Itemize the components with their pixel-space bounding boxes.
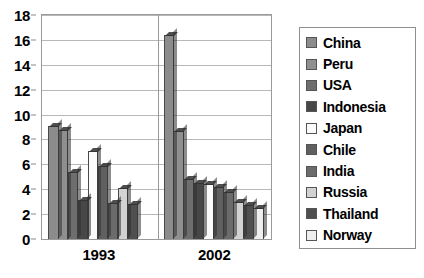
- bar-side-face: [117, 196, 121, 239]
- legend-item-usa[interactable]: USA: [306, 75, 415, 96]
- legend-swatch-icon: [306, 187, 317, 198]
- legend-swatch-icon: [306, 144, 317, 155]
- y-tick-label-12: 12: [14, 82, 30, 97]
- bar-side-face: [183, 124, 187, 239]
- y-tick-mark-6: [31, 164, 36, 165]
- y-tick-label-10: 10: [14, 107, 30, 122]
- y-tick-mark-16: [31, 39, 36, 40]
- legend-item-china[interactable]: China: [306, 32, 415, 53]
- x-tick-label-1993: 1993: [41, 246, 157, 263]
- legend-item-india[interactable]: India: [306, 160, 415, 181]
- legend-swatch-icon: [306, 59, 317, 70]
- bar-side-face: [87, 193, 91, 239]
- legend-item-japan[interactable]: Japan: [306, 118, 415, 139]
- bar-side-face: [253, 198, 257, 239]
- bar-china-2002: [164, 35, 175, 239]
- legend-item-indonesia[interactable]: Indonesia: [306, 96, 415, 117]
- legend-swatch-icon: [306, 101, 317, 112]
- bar-side-face: [173, 28, 177, 239]
- bar-side-face: [107, 159, 111, 239]
- y-tick-mark-8: [31, 139, 36, 140]
- legend-swatch-icon: [306, 123, 317, 134]
- y-tick-label-8: 8: [22, 132, 30, 147]
- y-tick-label-2: 2: [22, 207, 30, 222]
- legend-item-label: USA: [323, 78, 352, 92]
- bar-side-face: [243, 195, 247, 239]
- y-tick-label-4: 4: [22, 182, 30, 197]
- legend-swatch-icon: [306, 37, 317, 48]
- legend-item-chile[interactable]: Chile: [306, 139, 415, 160]
- legend-item-label: Japan: [323, 121, 362, 135]
- y-tick-label-0: 0: [22, 232, 30, 247]
- bar-side-face: [263, 201, 267, 239]
- bar-side-face: [213, 177, 217, 239]
- bar-side-face: [233, 185, 237, 239]
- y-tick-label-18: 18: [14, 8, 30, 23]
- y-tick-mark-4: [31, 189, 36, 190]
- bar-side-face: [223, 180, 227, 239]
- legend-swatch-icon: [306, 208, 317, 219]
- legend-item-label: Norway: [323, 228, 372, 242]
- bar-side-face: [203, 176, 207, 239]
- legend-item-norway[interactable]: Norway: [306, 225, 415, 246]
- bars-layer: [42, 15, 271, 239]
- bar-side-face: [193, 172, 197, 239]
- bar-side-face: [67, 123, 71, 240]
- bar-china-1993: [48, 126, 59, 239]
- legend-item-label: Russia: [323, 185, 367, 199]
- plot-area: [41, 14, 272, 240]
- y-tick-mark-0: [31, 239, 36, 240]
- bar-side-face: [137, 197, 141, 239]
- y-axis: 024681012141618: [0, 14, 36, 240]
- x-tick-label-2002: 2002: [157, 246, 273, 263]
- legend-swatch-icon: [306, 80, 317, 91]
- y-tick-label-16: 16: [14, 32, 30, 47]
- legend-item-russia[interactable]: Russia: [306, 182, 415, 203]
- legend-item-label: Thailand: [323, 207, 378, 221]
- y-tick-mark-14: [31, 64, 36, 65]
- legend-item-label: China: [323, 36, 360, 50]
- legend-item-label: Chile: [323, 143, 356, 157]
- legend-item-peru[interactable]: Peru: [306, 53, 415, 74]
- legend-item-thailand[interactable]: Thailand: [306, 203, 415, 224]
- legend-item-label: Peru: [323, 57, 353, 71]
- y-tick-label-6: 6: [22, 157, 30, 172]
- legend-item-label: Indonesia: [323, 100, 386, 114]
- y-tick-label-14: 14: [14, 57, 30, 72]
- y-tick-mark-12: [31, 89, 36, 90]
- legend-swatch-icon: [306, 230, 317, 241]
- bar-side-face: [77, 165, 81, 239]
- group-separator: [158, 15, 159, 239]
- legend-swatch-icon: [306, 166, 317, 177]
- y-tick-mark-18: [31, 15, 36, 16]
- bar-side-face: [97, 144, 101, 239]
- bar-side-face: [127, 181, 131, 239]
- y-tick-mark-2: [31, 214, 36, 215]
- legend: ChinaPeruUSAIndonesiaJapanChileIndiaRuss…: [299, 27, 416, 249]
- bar-side-face: [58, 119, 62, 239]
- bar-chart: 024681012141618 19932002 ChinaPeruUSAInd…: [0, 0, 424, 278]
- legend-item-label: India: [323, 164, 354, 178]
- y-tick-mark-10: [31, 114, 36, 115]
